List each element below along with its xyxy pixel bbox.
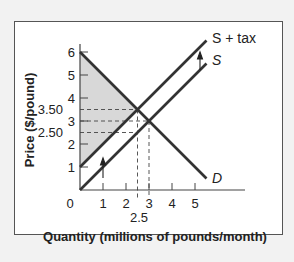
x-axis-title: Quantity (millions of pounds/month) (43, 229, 267, 244)
svg-text:3: 3 (68, 114, 75, 129)
svg-text:1: 1 (68, 160, 75, 175)
svg-text:2.50: 2.50 (38, 125, 63, 140)
svg-text:2: 2 (122, 196, 129, 211)
svg-text:3.50: 3.50 (38, 102, 63, 117)
svg-text:4: 4 (68, 91, 75, 106)
svg-text:2.5: 2.5 (130, 210, 148, 225)
y-axis-title: Price ($/pound) (22, 73, 37, 168)
supply-label: S (212, 52, 222, 68)
svg-text:3: 3 (145, 196, 152, 211)
svg-text:4: 4 (168, 196, 175, 211)
svg-text:2: 2 (68, 137, 75, 152)
chart-svg: 1 2 4 5 6 3 3.50 2.50 0 1 2 3 4 5 2.5 Qu… (0, 0, 294, 262)
svg-text:5: 5 (191, 196, 198, 211)
demand-label: D (212, 170, 222, 186)
svg-text:0: 0 (66, 196, 73, 211)
svg-text:5: 5 (68, 68, 75, 83)
svg-text:1: 1 (99, 196, 106, 211)
svg-text:6: 6 (68, 45, 75, 60)
supply-tax-label: S + tax (212, 30, 256, 46)
